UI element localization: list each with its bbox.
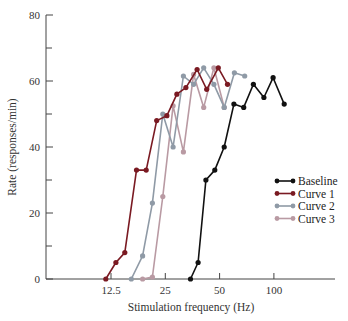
data-point [232,70,237,75]
series-layer [103,65,287,281]
data-point [103,276,108,281]
data-point [231,102,236,107]
x-axis-title: Stimulation frequency (Hz) [128,301,255,314]
data-point [181,149,186,154]
legend-swatch-dot [291,204,296,209]
y-tick-label: 20 [29,207,41,219]
data-point [201,105,206,110]
legend-label: Curve 1 [298,188,335,200]
y-tick-label: 80 [29,9,41,21]
data-point [241,105,246,110]
legend-label: Baseline [298,175,338,187]
data-point [150,201,155,206]
data-point [164,113,169,118]
y-axis-title: Rate (responses/min) [6,98,19,196]
data-point [211,82,216,87]
data-point [195,67,200,72]
data-point [251,82,256,87]
data-point [271,75,276,80]
legend-label: Curve 3 [298,213,335,225]
data-point [144,168,149,173]
data-point [160,194,165,199]
data-point [222,144,227,149]
legend-item: Curve 1 [275,188,335,200]
legend-swatch-dot [291,191,296,196]
data-point [242,73,247,78]
data-point [154,118,159,123]
data-point [196,260,201,265]
y-ticks: 020406080 [29,9,53,285]
legend-item: Curve 2 [275,200,335,212]
data-point [282,102,287,107]
data-point [203,177,208,182]
line-chart: 020406080 12.52550100 Rate (responses/mi… [0,0,348,321]
legend-label: Curve 2 [298,200,335,212]
x-tick-label: 12.5 [101,284,121,296]
legend-swatch-dot [275,191,280,196]
x-tick-label: 100 [266,284,283,296]
series-line [131,68,244,279]
x-tick-label: 25 [160,284,172,296]
data-point [134,168,139,173]
legend-item: Baseline [275,175,338,187]
data-point [188,276,193,281]
legend-swatch-dot [291,216,296,221]
data-point [204,87,209,92]
data-point [171,144,176,149]
data-point [183,85,188,90]
data-point [150,274,155,279]
data-point [225,82,230,87]
data-point [201,65,206,70]
data-point [113,260,118,265]
legend: BaselineCurve 1Curve 2Curve 3 [275,175,338,225]
data-point [212,168,217,173]
data-point [181,73,186,78]
legend-swatch-dot [275,179,280,184]
data-point [140,276,145,281]
data-point [140,253,145,258]
legend-swatch-dot [275,216,280,221]
series-line [106,68,228,279]
x-tick-label: 50 [214,284,226,296]
data-point [129,276,134,281]
legend-item: Curve 3 [275,213,335,225]
data-point [122,250,127,255]
data-point [191,82,196,87]
legend-swatch-dot [275,204,280,209]
y-tick-label: 0 [35,273,41,285]
legend-swatch-dot [291,179,296,184]
data-point [261,95,266,100]
series-curve-2 [129,65,248,281]
y-tick-label: 60 [29,75,41,87]
series-curve-3 [140,65,227,281]
data-point [174,92,179,97]
data-point [216,65,221,70]
y-tick-label: 40 [29,141,41,153]
data-point [222,105,227,110]
